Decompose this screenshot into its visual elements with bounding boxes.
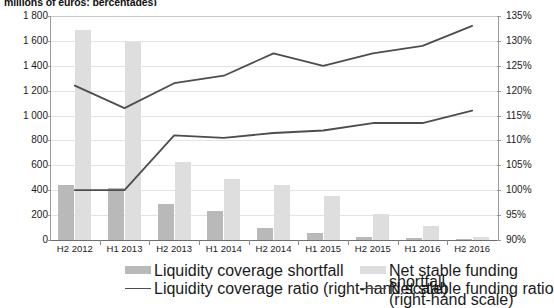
legend-line-icon <box>360 288 386 289</box>
legend-swatch-icon <box>360 266 386 274</box>
legend-label: Liquidity coverage shortfall <box>154 265 343 276</box>
chart-legend: Liquidity coverage shortfallNet stable f… <box>0 263 554 299</box>
legend-line-icon <box>125 288 151 289</box>
legend-swatch-icon <box>125 266 151 274</box>
line-net-stable-funding-ratio <box>75 111 472 191</box>
legend-label: Net stable funding ratio (right-hand sca… <box>389 283 554 305</box>
line-liquidity-coverage-ratio <box>75 26 472 108</box>
